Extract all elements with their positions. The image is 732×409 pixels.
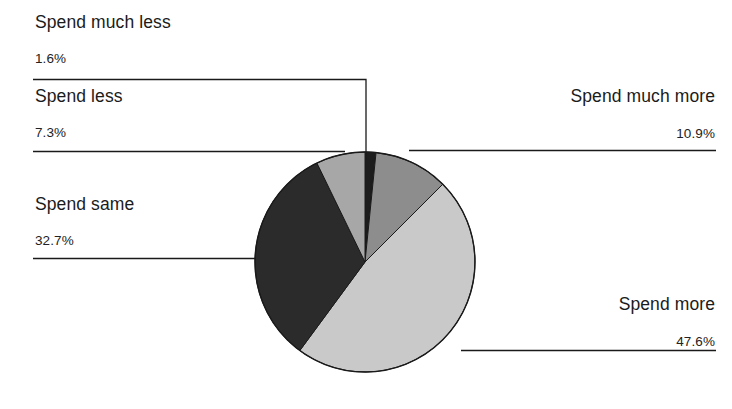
callout-label-spend-less: Spend less: [35, 88, 123, 106]
callout-value-spend-more: 47.6%: [460, 335, 715, 349]
callout-label-spend-more: Spend more: [460, 296, 715, 314]
callout-label-spend-much-more: Spend much more: [414, 88, 715, 106]
pie-chart-figure: Spend much less 1.6% Spend less 7.3% Spe…: [0, 0, 732, 409]
callout-spend-less[interactable]: Spend less 7.3%: [35, 88, 123, 139]
callout-label-spend-same: Spend same: [35, 196, 134, 214]
callout-spend-much-more[interactable]: Spend much more 10.9%: [414, 88, 715, 140]
callout-value-spend-much-more: 10.9%: [414, 127, 715, 141]
callout-value-spend-much-less: 1.6%: [35, 52, 171, 66]
callout-label-spend-much-less: Spend much less: [35, 14, 171, 32]
callout-spend-much-less[interactable]: Spend much less 1.6%: [35, 14, 171, 65]
callout-spend-more[interactable]: Spend more 47.6%: [460, 296, 715, 348]
callout-value-spend-same: 32.7%: [35, 234, 134, 248]
callout-value-spend-less: 7.3%: [35, 126, 123, 140]
callout-spend-same[interactable]: Spend same 32.7%: [35, 196, 134, 247]
pie-slices: [255, 152, 475, 372]
